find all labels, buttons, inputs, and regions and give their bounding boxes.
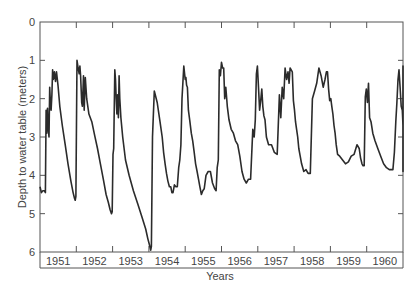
y-tick-label: 3 bbox=[29, 131, 35, 143]
x-tick-label: 1959 bbox=[336, 255, 360, 267]
x-tick-label: 1957 bbox=[264, 255, 288, 267]
x-tick-label: 1952 bbox=[82, 255, 106, 267]
y-axis-title: Depth to water table (meters) bbox=[16, 66, 28, 208]
x-tick-label: 1951 bbox=[46, 255, 70, 267]
y-tick-label: 4 bbox=[29, 169, 35, 181]
y-tick-label: 2 bbox=[29, 93, 35, 105]
x-axis-ticks: 1951195219531954195519561957195819591960 bbox=[46, 22, 397, 267]
x-tick-label: 1953 bbox=[119, 255, 143, 267]
x-axis-title: Years bbox=[206, 270, 234, 282]
y-tick-label: 1 bbox=[29, 54, 35, 66]
x-tick-label: 1958 bbox=[300, 255, 324, 267]
y-tick-label: 0 bbox=[29, 16, 35, 28]
y-tick-label: 6 bbox=[29, 246, 35, 258]
x-tick-label: 1960 bbox=[373, 255, 397, 267]
line-chart: 0123456 19511952195319541955195619571958… bbox=[0, 0, 415, 295]
x-tick-label: 1956 bbox=[227, 255, 251, 267]
depth-series-line bbox=[40, 60, 403, 250]
y-tick-label: 5 bbox=[29, 208, 35, 220]
y-axis-ticks: 0123456 bbox=[29, 16, 403, 258]
x-tick-label: 1954 bbox=[155, 255, 179, 267]
x-tick-label: 1955 bbox=[191, 255, 215, 267]
